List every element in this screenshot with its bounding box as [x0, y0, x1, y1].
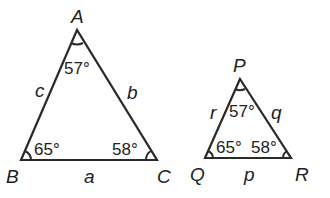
vertex-label-b: B — [6, 166, 19, 187]
vertex-label-a: A — [70, 6, 84, 27]
angle-arc-b — [25, 151, 31, 160]
angle-arc-p — [235, 89, 245, 90]
triangle-pqr: P Q R r q p 57° 65° 58° — [190, 55, 309, 185]
side-label-q: q — [271, 102, 282, 123]
vertex-label-p: P — [233, 55, 246, 76]
angle-label-r: 58° — [251, 138, 277, 157]
angle-label-p: 57° — [229, 102, 255, 121]
vertex-label-r: R — [295, 164, 309, 185]
side-label-p: p — [243, 164, 255, 185]
angle-label-b: 65° — [34, 140, 60, 159]
side-label-c: c — [35, 80, 45, 101]
angle-label-c: 58° — [112, 140, 138, 159]
vertex-label-q: Q — [190, 164, 205, 185]
side-label-b: b — [127, 82, 138, 103]
side-label-a: a — [84, 166, 95, 187]
triangle-abc: A B C c b a 57° 65° 58° — [6, 6, 171, 187]
diagram-canvas: A B C c b a 57° 65° 58° P Q R r q p 57° … — [0, 0, 330, 198]
vertex-label-c: C — [157, 166, 171, 187]
angle-arc-c — [146, 151, 151, 160]
side-label-r: r — [210, 102, 217, 123]
angle-label-a: 57° — [64, 59, 90, 78]
angle-arc-a — [71, 43, 83, 44]
angle-label-q: 65° — [216, 138, 242, 157]
